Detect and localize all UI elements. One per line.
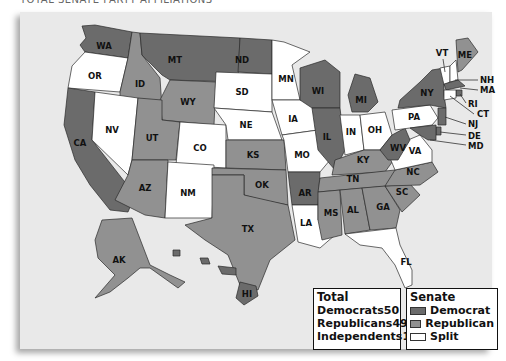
svg-text:NV: NV — [105, 125, 119, 135]
svg-text:WI: WI — [312, 86, 325, 96]
svg-text:WV: WV — [390, 143, 406, 153]
legend-total-title: Total — [317, 291, 397, 304]
state-NH — [450, 60, 458, 82]
svg-text:SC: SC — [396, 187, 408, 197]
svg-text:CT: CT — [477, 109, 489, 119]
svg-text:LA: LA — [300, 218, 312, 228]
svg-text:ME: ME — [458, 50, 472, 60]
svg-text:MS: MS — [324, 208, 339, 218]
state-AK — [95, 218, 185, 298]
svg-text:AR: AR — [298, 188, 312, 198]
svg-text:FL: FL — [400, 257, 412, 267]
svg-text:RI: RI — [468, 99, 478, 109]
svg-text:MA: MA — [480, 85, 495, 95]
svg-text:AZ: AZ — [139, 183, 152, 193]
legend-total-row-independents: Independents 1 — [317, 330, 397, 343]
hi-island-4 — [173, 250, 180, 256]
legend-item-split: Split — [410, 330, 494, 343]
svg-text:OK: OK — [255, 180, 269, 190]
hi-island-2 — [200, 258, 210, 264]
legend-total-row-democrats: Democrats 50 — [317, 304, 397, 317]
svg-text:NH: NH — [480, 75, 494, 85]
state-WI — [300, 60, 340, 108]
legend-item-republican: Republican — [410, 317, 494, 330]
state-CT — [444, 90, 456, 100]
svg-text:AL: AL — [347, 205, 360, 215]
svg-text:TN: TN — [347, 174, 360, 184]
svg-text:MO: MO — [294, 150, 310, 160]
svg-text:MN: MN — [278, 74, 294, 84]
svg-text:IA: IA — [288, 114, 298, 124]
svg-text:AK: AK — [112, 255, 126, 265]
svg-text:IL: IL — [323, 132, 332, 142]
svg-text:DE: DE — [468, 131, 481, 141]
svg-text:NE: NE — [240, 120, 253, 130]
svg-text:VT: VT — [436, 48, 449, 58]
svg-text:SD: SD — [235, 87, 248, 97]
svg-text:NC: NC — [406, 167, 419, 177]
svg-text:CA: CA — [74, 138, 87, 148]
legend-item-democrat: Democrat — [410, 304, 494, 317]
svg-text:WY: WY — [180, 97, 196, 107]
svg-text:MT: MT — [168, 55, 182, 65]
svg-text:OH: OH — [368, 125, 382, 135]
democrat-swatch-icon — [410, 307, 426, 315]
svg-text:KY: KY — [357, 155, 371, 165]
svg-text:MD: MD — [468, 141, 484, 151]
state-NJ — [438, 108, 446, 125]
svg-text:OR: OR — [88, 71, 102, 81]
svg-text:MI: MI — [355, 95, 367, 105]
svg-text:ID: ID — [135, 79, 145, 89]
svg-text:ND: ND — [235, 55, 249, 65]
state-DE — [436, 127, 441, 135]
svg-text:NM: NM — [180, 188, 196, 198]
svg-text:TX: TX — [242, 224, 255, 234]
svg-text:GA: GA — [376, 202, 390, 212]
svg-text:UT: UT — [146, 133, 159, 143]
svg-text:KS: KS — [247, 150, 260, 160]
republican-swatch-icon — [410, 320, 421, 328]
legend-total: Total Democrats 50 Republicans 49 Indepe… — [313, 288, 401, 350]
svg-text:PA: PA — [408, 112, 420, 122]
legend-senate: Senate Democrat Republican Split — [406, 288, 498, 350]
svg-text:IN: IN — [346, 127, 356, 137]
svg-text:VA: VA — [409, 146, 422, 156]
state-MI — [348, 74, 378, 112]
legend-senate-title: Senate — [410, 291, 494, 304]
legend-total-row-republicans: Republicans 49 — [317, 317, 397, 330]
svg-text:CO: CO — [193, 143, 206, 153]
svg-text:NY: NY — [420, 88, 434, 98]
svg-text:WA: WA — [96, 41, 112, 51]
svg-text:NJ: NJ — [468, 119, 478, 129]
svg-text:HI: HI — [242, 289, 252, 299]
split-swatch-icon — [410, 333, 426, 341]
hi-island-3 — [218, 266, 236, 275]
